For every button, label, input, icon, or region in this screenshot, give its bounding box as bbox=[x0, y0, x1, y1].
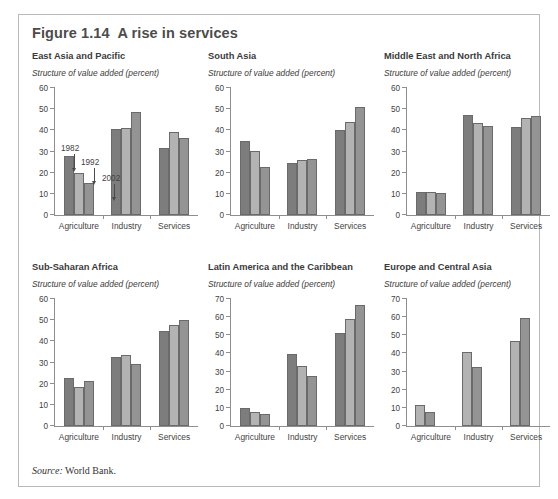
x-axis-tick bbox=[150, 215, 151, 219]
year-annotation-label: 1982 bbox=[61, 144, 79, 153]
source-note: Source: World Bank. bbox=[32, 465, 116, 476]
x-axis-tick bbox=[502, 215, 503, 219]
y-axis-tick-label: 70 bbox=[391, 295, 400, 304]
x-axis-tick bbox=[279, 215, 280, 219]
bar bbox=[355, 107, 365, 215]
bar bbox=[287, 163, 297, 215]
x-axis-label: Services bbox=[158, 221, 190, 231]
y-axis-tick-label: 40 bbox=[39, 337, 48, 346]
bar bbox=[510, 341, 520, 426]
bar bbox=[159, 148, 169, 215]
annotation-arrow-icon bbox=[94, 168, 95, 181]
bar bbox=[425, 412, 435, 426]
page-title: Figure 1.14 A rise in services bbox=[32, 25, 238, 41]
bar bbox=[131, 364, 141, 426]
bar bbox=[416, 192, 426, 215]
x-axis-tick bbox=[455, 426, 456, 430]
bar bbox=[521, 118, 531, 215]
bar bbox=[159, 331, 169, 426]
y-axis-tick-label: 40 bbox=[391, 126, 400, 135]
annotation-arrow-icon bbox=[114, 184, 115, 197]
axes: 0102030405060AgricultureIndustryServices bbox=[230, 88, 374, 216]
x-axis-label: Industry bbox=[464, 221, 494, 231]
bar-group bbox=[407, 299, 455, 426]
x-axis-label: Agriculture bbox=[59, 221, 99, 231]
panel-title: South Asia bbox=[208, 51, 256, 61]
bar bbox=[84, 381, 94, 426]
bar-group bbox=[455, 88, 503, 215]
bar bbox=[84, 183, 94, 215]
x-axis-tick bbox=[103, 215, 104, 219]
source-keyword: Source: bbox=[32, 465, 63, 476]
y-axis-tick-label: 50 bbox=[39, 105, 48, 114]
x-axis-label: Agriculture bbox=[59, 432, 99, 442]
axes: 0102030405060AgricultureIndustryServices… bbox=[54, 88, 198, 216]
y-axis-tick-label: 50 bbox=[391, 331, 400, 340]
bar-group bbox=[279, 299, 327, 426]
bar bbox=[260, 414, 270, 426]
bar bbox=[121, 355, 131, 426]
y-axis-tick-label: 10 bbox=[391, 403, 400, 412]
y-axis-tick-label: 10 bbox=[39, 189, 48, 198]
y-axis-tick-label: 60 bbox=[39, 84, 48, 93]
bar-group bbox=[231, 299, 279, 426]
bar-group bbox=[150, 88, 198, 215]
bar bbox=[483, 126, 493, 215]
x-axis-label: Industry bbox=[288, 221, 318, 231]
y-axis-tick-label: 20 bbox=[39, 168, 48, 177]
y-axis-tick-label: 30 bbox=[39, 358, 48, 367]
x-axis-tick bbox=[103, 426, 104, 430]
bar bbox=[121, 128, 131, 215]
y-axis-tick-label: 30 bbox=[215, 147, 224, 156]
panel-subtitle: Structure of value added (percent) bbox=[32, 279, 159, 289]
y-axis-tick-label: 30 bbox=[391, 367, 400, 376]
x-axis-label: Services bbox=[510, 432, 542, 442]
panel-subtitle: Structure of value added (percent) bbox=[208, 68, 335, 78]
y-axis-tick-label: 50 bbox=[215, 331, 224, 340]
panel-subtitle: Structure of value added (percent) bbox=[384, 279, 511, 289]
x-axis-tick bbox=[455, 215, 456, 219]
y-axis-tick-label: 0 bbox=[219, 422, 224, 431]
bar bbox=[111, 129, 121, 215]
bar bbox=[240, 408, 250, 426]
x-axis-label: Agriculture bbox=[235, 221, 275, 231]
source-value: World Bank. bbox=[63, 465, 116, 476]
figure-container: Figure 1.14 A rise in services East Asia… bbox=[18, 14, 540, 487]
y-axis-tick-label: 60 bbox=[215, 313, 224, 322]
y-axis-tick-label: 10 bbox=[391, 189, 400, 198]
year-annotation-label: 1992 bbox=[81, 158, 99, 167]
y-axis-tick-label: 20 bbox=[215, 168, 224, 177]
x-axis-label: Industry bbox=[112, 221, 142, 231]
axes: 010203040506070AgricultureIndustryServic… bbox=[230, 299, 374, 427]
plot-area: 0102030405060AgricultureIndustryServices… bbox=[32, 84, 200, 236]
bar bbox=[345, 319, 355, 426]
bar bbox=[297, 366, 307, 426]
bar bbox=[250, 412, 260, 427]
x-axis-label: Services bbox=[510, 221, 542, 231]
x-axis-tick bbox=[279, 426, 280, 430]
bar bbox=[250, 151, 260, 215]
y-axis-tick-label: 20 bbox=[391, 168, 400, 177]
bar-group bbox=[103, 88, 151, 215]
bar bbox=[169, 325, 179, 426]
bar bbox=[297, 160, 307, 215]
y-axis-tick-label: 60 bbox=[215, 84, 224, 93]
bar bbox=[179, 320, 189, 426]
y-axis-tick-label: 0 bbox=[43, 211, 48, 220]
y-axis-tick-label: 0 bbox=[219, 211, 224, 220]
x-axis-tick bbox=[326, 215, 327, 219]
y-axis-tick-label: 0 bbox=[395, 422, 400, 431]
y-axis-tick-label: 40 bbox=[39, 126, 48, 135]
plot-area: 0102030405060AgricultureIndustryServices bbox=[32, 295, 200, 447]
bar bbox=[436, 193, 446, 215]
x-axis-label: Agriculture bbox=[235, 432, 275, 442]
bar bbox=[335, 130, 345, 216]
y-axis-tick-label: 30 bbox=[215, 367, 224, 376]
x-axis-tick bbox=[150, 426, 151, 430]
bar-group bbox=[279, 88, 327, 215]
plot-area: 010203040506070AgricultureIndustryServic… bbox=[384, 295, 552, 447]
x-axis-tick bbox=[326, 426, 327, 430]
y-axis-tick-label: 30 bbox=[391, 147, 400, 156]
y-axis-tick-label: 10 bbox=[215, 189, 224, 198]
y-axis-tick-label: 60 bbox=[39, 295, 48, 304]
